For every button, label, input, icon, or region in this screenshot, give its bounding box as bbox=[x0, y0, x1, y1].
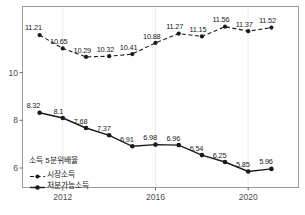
x-tick-label-2016: 2016 bbox=[136, 192, 176, 202]
y-tick-label-8: 8 bbox=[0, 115, 18, 125]
data-label-disposable-2013: 7.68 bbox=[74, 117, 88, 126]
data-label-market-2018: 11.15 bbox=[189, 25, 206, 34]
data-label-market-2014: 10.32 bbox=[97, 45, 115, 54]
legend-title: 소득 5분위배율 bbox=[29, 154, 89, 165]
legend-item-market-income[interactable]: 시장소득 bbox=[29, 168, 89, 179]
data-label-market-2012: 10.65 bbox=[50, 37, 68, 46]
legend: 소득 5분위배율 시장소득 처분가능소득 bbox=[27, 152, 92, 192]
income-quintile-ratio-chart: 10 8 6 2012 2016 2020 11.21 10.65 10.29 … bbox=[0, 0, 305, 215]
data-label-disposable-2017: 6.96 bbox=[167, 134, 181, 143]
x-tick-label-2012: 2012 bbox=[43, 192, 83, 202]
data-label-market-2019: 11.56 bbox=[213, 15, 230, 24]
data-label-market-2016: 10.88 bbox=[143, 32, 161, 41]
legend-key-dashed-icon bbox=[29, 168, 46, 179]
y-tick-label-6: 6 bbox=[0, 163, 18, 173]
data-label-disposable-2016: 6.98 bbox=[143, 133, 157, 142]
data-label-disposable-2019: 6.25 bbox=[213, 151, 227, 160]
legend-item-disposable-income[interactable]: 처분가능소득 bbox=[29, 179, 89, 190]
data-label-disposable-2012: 8.1 bbox=[54, 107, 64, 116]
data-label-disposable-2011: 8.32 bbox=[27, 101, 41, 110]
legend-key-solid-icon bbox=[29, 179, 46, 190]
data-label-market-2015: 10.41 bbox=[120, 43, 138, 52]
data-label-market-2013: 10.29 bbox=[74, 46, 92, 55]
data-label-disposable-2014: 7.37 bbox=[97, 124, 111, 133]
legend-label-disposable-income: 처분가능소득 bbox=[47, 179, 89, 190]
x-tick-label-2020: 2020 bbox=[228, 192, 268, 202]
data-label-market-2011: 11.21 bbox=[25, 23, 42, 32]
data-label-disposable-2020: 5.85 bbox=[236, 160, 250, 169]
data-label-disposable-2021: 5.96 bbox=[259, 157, 273, 166]
y-tick-label-10: 10 bbox=[0, 68, 18, 78]
legend-label-market-income: 시장소득 bbox=[47, 168, 75, 179]
data-label-market-2020: 11.37 bbox=[236, 20, 253, 29]
data-label-disposable-2018: 6.54 bbox=[190, 144, 204, 153]
data-label-disposable-2015: 6.91 bbox=[120, 135, 134, 144]
data-label-market-2021: 11.52 bbox=[259, 16, 276, 25]
data-label-market-2017: 11.27 bbox=[166, 22, 183, 31]
